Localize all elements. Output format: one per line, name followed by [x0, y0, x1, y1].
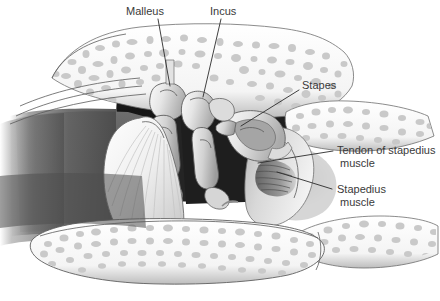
label-incus: Incus: [210, 5, 237, 17]
label-tendon-of-stapedius-muscle-line2: muscle: [340, 157, 375, 169]
label-stapedius-muscle-line1: Stapedius: [337, 183, 386, 195]
canal-lower-shadow: [0, 173, 146, 228]
anatomical-figure: Malleus Incus Stapes Tendon of stapedius…: [0, 0, 440, 301]
label-stapedius-muscle-line2: muscle: [340, 196, 375, 208]
lower-temporal-bone: [30, 219, 324, 285]
label-malleus: Malleus: [126, 5, 164, 17]
label-stapes: Stapes: [302, 79, 337, 91]
label-tendon-of-stapedius-muscle-line1: Tendon of stapedius: [337, 144, 436, 156]
ear-anatomy-illustration: Malleus Incus Stapes Tendon of stapedius…: [0, 0, 440, 301]
